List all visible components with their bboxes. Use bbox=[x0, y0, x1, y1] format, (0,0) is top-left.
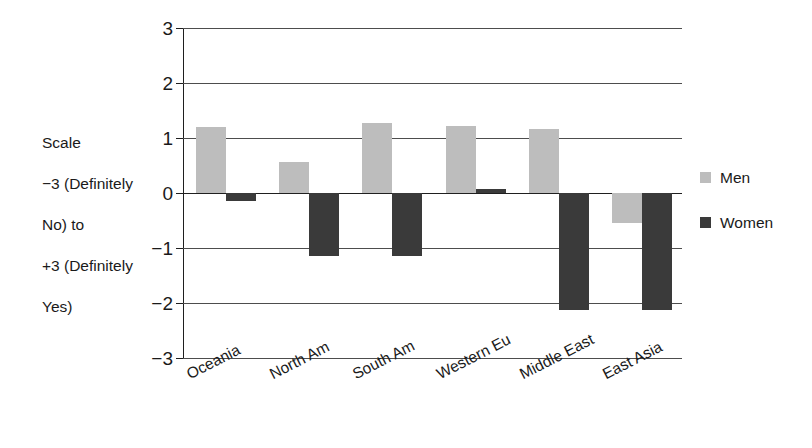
legend-label: Women bbox=[720, 214, 773, 232]
y-tick-label: 0 bbox=[162, 184, 173, 203]
gridline-neg3 bbox=[183, 358, 682, 359]
y-tick-label: −1 bbox=[151, 239, 173, 258]
y-tick-label: 3 bbox=[162, 19, 173, 38]
y-tick-mark bbox=[176, 358, 183, 359]
gridline-1 bbox=[183, 138, 682, 139]
legend-item-men: Men bbox=[700, 168, 773, 187]
y-tick-mark bbox=[176, 303, 183, 304]
y-axis-label-line-3: No) to bbox=[42, 215, 180, 236]
bar-women-oceania bbox=[226, 193, 256, 201]
bar-men-western-eu bbox=[446, 126, 476, 193]
legend-label: Men bbox=[720, 169, 750, 187]
legend-item-women: Women bbox=[700, 213, 773, 232]
legend-swatch-men bbox=[700, 172, 711, 183]
bar-women-north-am bbox=[309, 193, 339, 256]
plot-area: 3210−1−2−3 bbox=[183, 28, 682, 358]
y-tick-label: 2 bbox=[162, 74, 173, 93]
y-tick-mark bbox=[176, 138, 183, 139]
y-tick-mark bbox=[176, 83, 183, 84]
bar-men-middle-east bbox=[529, 129, 559, 193]
y-axis-label-line-1: Scale bbox=[42, 133, 180, 154]
y-tick-mark bbox=[176, 248, 183, 249]
bar-men-east-asia bbox=[612, 193, 642, 223]
y-axis-label-line-4: +3 (Definitely bbox=[42, 256, 180, 277]
bar-women-east-asia bbox=[642, 193, 672, 310]
bar-men-north-am bbox=[279, 162, 309, 193]
gridline-3 bbox=[183, 28, 682, 29]
bar-men-south-am bbox=[362, 123, 392, 193]
bar-women-south-am bbox=[392, 193, 422, 256]
bar-women-middle-east bbox=[559, 193, 589, 310]
gridline-2 bbox=[183, 83, 682, 84]
y-tick-label: −3 bbox=[151, 349, 173, 368]
y-tick-mark bbox=[176, 193, 183, 194]
y-tick-label: 1 bbox=[162, 129, 173, 148]
gridline-neg2 bbox=[183, 303, 682, 304]
legend: MenWomen bbox=[700, 168, 773, 258]
gridline-0 bbox=[183, 193, 682, 194]
y-tick-mark bbox=[176, 28, 183, 29]
y-axis-label-line-2: −3 (Definitely bbox=[42, 174, 180, 195]
bar-women-western-eu bbox=[476, 189, 506, 193]
gridline-neg1 bbox=[183, 248, 682, 249]
y-tick-label: −2 bbox=[151, 294, 173, 313]
bar-chart: Scale −3 (Definitely No) to +3 (Definite… bbox=[0, 0, 812, 448]
bar-men-oceania bbox=[196, 127, 226, 193]
legend-swatch-women bbox=[700, 217, 711, 228]
